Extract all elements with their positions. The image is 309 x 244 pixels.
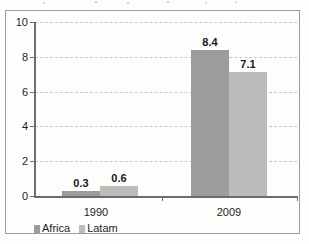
scanned-page: 0246810 0.30.68.47.1 1990 2009 Africa La… [0,0,309,244]
y-axis-tick-2 [30,161,35,162]
y-axis-tick-label-8: 8 [8,52,28,63]
legend: Africa Latam [34,223,118,234]
bar-latam-1990[interactable] [100,186,138,196]
y-axis-tick-6 [30,92,35,93]
scan-artifact-speckle [0,0,309,9]
legend-label-africa: Africa [42,223,70,234]
gridline-10 [35,22,297,23]
y-axis-tick-label-10: 10 [8,17,28,28]
bar-value-label-africa-2009: 8.4 [191,37,229,48]
bar-value-label-latam-2009: 7.1 [229,59,267,70]
y-axis-tick-4 [30,126,35,127]
y-axis-tick-label-6: 6 [8,87,28,98]
y-axis-tick-8 [30,57,35,58]
x-axis-category-label-1990: 1990 [66,207,126,218]
y-axis-tick-10 [30,22,35,23]
x-axis-line [34,196,297,198]
legend-item-latam[interactable]: Latam [79,223,118,234]
x-axis-category-label-2009: 2009 [199,207,259,218]
y-axis-tick-label-0: 0 [8,191,28,202]
y-axis-tick-label-2: 2 [8,156,28,167]
legend-label-latam: Latam [87,223,118,234]
bar-latam-2009[interactable] [229,72,267,196]
y-axis-labels: 0246810 [6,11,28,211]
gridline-8 [35,57,297,58]
y-axis-tick-label-4: 4 [8,121,28,132]
x-axis-end-tick [297,196,298,201]
bar-value-label-latam-1990: 0.6 [100,173,138,184]
legend-swatch-icon-latam [79,225,85,233]
bar-africa-2009[interactable] [191,50,229,196]
x-axis-group-divider-tick [162,196,163,201]
bar-value-label-africa-1990: 0.3 [62,178,100,189]
bar-africa-1990[interactable] [62,191,100,196]
y-axis-line [34,22,36,197]
chart-frame: 0246810 0.30.68.47.1 1990 2009 Africa La… [5,10,300,234]
legend-swatch-icon-africa [34,225,40,233]
legend-item-africa[interactable]: Africa [34,223,70,234]
